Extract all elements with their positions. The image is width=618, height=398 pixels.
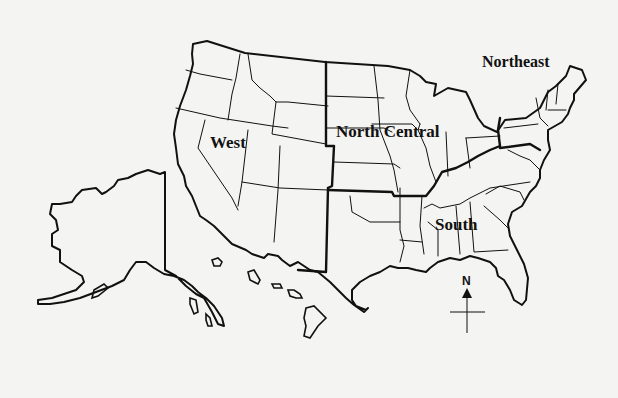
northcentral-northeast-border	[498, 118, 500, 146]
compass-north-label: N	[462, 274, 471, 288]
region-label-northeast: Northeast	[482, 53, 550, 71]
northcentral-south-border	[328, 146, 500, 196]
west-south-border	[298, 188, 328, 272]
region-label-south: South	[435, 215, 478, 235]
north-arrow-icon	[450, 288, 485, 333]
west-northcentral-border	[326, 62, 334, 188]
northeast-south-border	[500, 144, 540, 150]
region-label-north-central: North Central	[336, 122, 439, 142]
region-label-west: West	[210, 133, 246, 153]
alaska-panhandle-islands	[190, 298, 212, 326]
conus-outline	[174, 41, 586, 312]
